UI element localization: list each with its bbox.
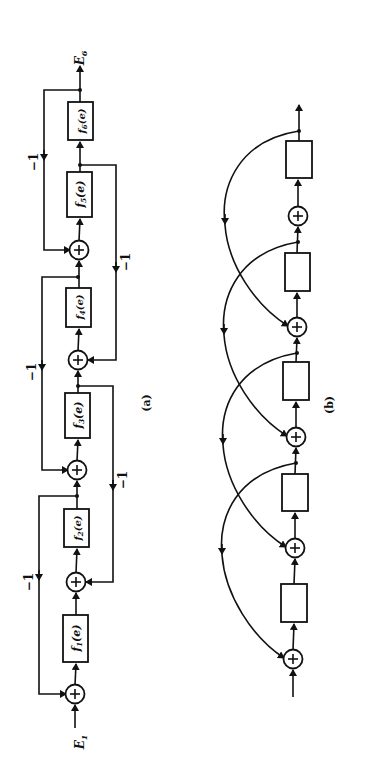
gain-label: −1 <box>27 153 41 171</box>
caption-b: (b) <box>323 396 336 414</box>
block-f5: f5(e) <box>67 172 92 217</box>
wire <box>79 219 80 241</box>
panel-b: (b) <box>222 105 336 697</box>
wire <box>293 624 294 650</box>
block-f2: f2(e) <box>64 509 89 547</box>
svg-text:f1(e): f1(e) <box>70 624 84 652</box>
wire <box>75 664 76 685</box>
wire <box>76 549 77 573</box>
svg-text:f5(e): f5(e) <box>74 180 88 208</box>
summing-junction <box>67 573 86 592</box>
gain-label: −1 <box>25 363 39 381</box>
block <box>285 253 310 291</box>
svg-text:f3(e): f3(e) <box>72 401 86 429</box>
gain-label: −1 <box>22 573 36 591</box>
block-f6: f6(e) <box>68 102 93 140</box>
output-label: E6 <box>73 50 89 66</box>
wire <box>78 329 79 351</box>
block-diagram-figure: f1(e) f2(e) f3(e) f4(e) f5(e) f6(e) −1 −… <box>0 0 381 764</box>
block-f4: f4(e) <box>66 288 91 327</box>
summing-junction <box>286 539 305 558</box>
block <box>282 474 308 511</box>
caption-a: (a) <box>140 394 153 412</box>
block <box>286 141 312 178</box>
input-label: E1 <box>73 735 89 751</box>
gain-label: −1 <box>116 471 130 489</box>
block <box>283 362 309 400</box>
summing-junction <box>284 650 303 669</box>
panel-a: f1(e) f2(e) f3(e) f4(e) f5(e) f6(e) −1 −… <box>22 50 153 750</box>
summing-junction <box>68 461 87 480</box>
wire <box>294 559 295 584</box>
summing-junction <box>66 685 85 704</box>
block <box>281 584 307 622</box>
block-f1: f1(e) <box>63 615 88 662</box>
wire <box>295 448 296 474</box>
summing-junction <box>69 351 88 370</box>
block-f3: f3(e) <box>65 393 90 438</box>
summing-junction <box>288 318 307 337</box>
summing-junction <box>287 428 306 447</box>
wire <box>297 227 298 253</box>
wire <box>296 338 297 362</box>
summing-junction <box>70 241 89 260</box>
wire <box>77 440 78 461</box>
summing-junction <box>289 207 308 226</box>
gain-label: −1 <box>119 253 133 271</box>
